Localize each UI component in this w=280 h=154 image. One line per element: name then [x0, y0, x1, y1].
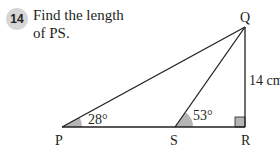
vertex-p-label: P	[55, 133, 63, 148]
vertex-r-label: R	[241, 133, 251, 148]
angle-p-label: 28°	[88, 112, 108, 127]
triangle-diagram: Q P S R 28° 53° 14 cm	[0, 0, 280, 154]
side-qr-label: 14 cm	[249, 73, 280, 88]
vertex-q-label: Q	[240, 10, 250, 25]
right-angle-marker	[235, 117, 245, 127]
vertex-s-label: S	[170, 133, 178, 148]
angle-s-label: 53°	[193, 108, 213, 123]
